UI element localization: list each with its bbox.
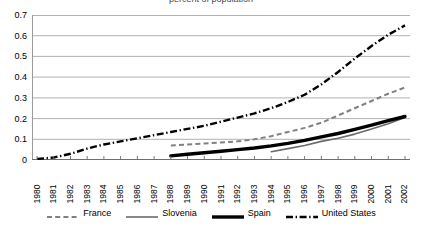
legend-item-slovenia[interactable]: Slovenia <box>125 208 197 218</box>
legend-swatch-icon <box>46 208 80 218</box>
y-tick-label: 0.7 <box>14 11 27 20</box>
axis-lines <box>32 15 410 160</box>
y-tick-label: 0 <box>22 156 27 165</box>
legend-swatch-icon <box>285 208 319 218</box>
y-tick-label: 0.5 <box>14 52 27 61</box>
plot-svg <box>32 15 410 160</box>
y-tick-label: 0.2 <box>14 114 27 123</box>
y-tick-label: 0.3 <box>14 93 27 102</box>
legend-label: United States <box>322 208 376 218</box>
x-tick-label: 1981 <box>49 184 58 203</box>
y-tick-label: 0.4 <box>14 73 27 82</box>
x-tick-label: 1994 <box>266 184 275 203</box>
chart-legend: FranceSloveniaSpainUnited States <box>0 204 422 222</box>
x-tick-label: 2000 <box>367 184 376 203</box>
x-tick-label: 1982 <box>65 184 74 203</box>
legend-item-spain[interactable]: Spain <box>211 208 271 218</box>
y-axis-labels: 00.10.20.30.40.50.60.7 <box>0 0 30 170</box>
x-tick-label: 2002 <box>400 184 409 203</box>
x-tick-label: 1990 <box>199 184 208 203</box>
x-tick-label: 1989 <box>183 184 192 203</box>
y-tick-label: 0.6 <box>14 31 27 40</box>
y-tick-label: 0.1 <box>14 135 27 144</box>
legend-item-france[interactable]: France <box>46 208 111 218</box>
x-tick-label: 1988 <box>166 184 175 203</box>
x-tick-label: 1993 <box>249 184 258 203</box>
legend-label: Spain <box>248 208 271 218</box>
series-line-spain <box>171 117 405 156</box>
plot-area <box>32 15 410 160</box>
x-tick-label: 1983 <box>82 184 91 203</box>
legend-item-united-states[interactable]: United States <box>285 208 376 218</box>
gridlines <box>32 16 410 161</box>
x-tick-label: 1980 <box>32 184 41 203</box>
x-tick-label: 1999 <box>350 184 359 203</box>
x-tick-label: 1984 <box>99 184 108 203</box>
x-tick-label: 1986 <box>132 184 141 203</box>
x-tick-label: 1997 <box>316 184 325 203</box>
line-chart: percent of population 00.10.20.30.40.50.… <box>0 0 422 226</box>
clipped-title-text: percent of population <box>0 0 422 4</box>
x-axis-labels: 1980198119821983198419851986198719881989… <box>32 163 410 203</box>
clipped-title: percent of population <box>0 0 422 5</box>
x-tick-label: 1992 <box>233 184 242 203</box>
legend-swatch-icon <box>211 208 245 218</box>
x-tick-label: 1998 <box>333 184 342 203</box>
x-tick-label: 1991 <box>216 184 225 203</box>
x-tick-label: 1987 <box>149 184 158 203</box>
legend-label: France <box>83 208 111 218</box>
legend-label: Slovenia <box>162 208 197 218</box>
x-tick-label: 1995 <box>283 184 292 203</box>
x-tick-label: 2001 <box>383 184 392 203</box>
x-tick-label: 1985 <box>116 184 125 203</box>
x-tick-label: 1996 <box>300 184 309 203</box>
legend-swatch-icon <box>125 208 159 218</box>
series-line-france <box>171 88 405 146</box>
